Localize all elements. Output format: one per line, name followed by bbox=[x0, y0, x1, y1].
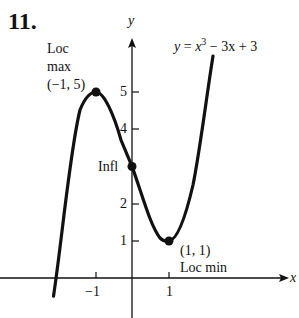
y-axis-label: y bbox=[128, 14, 134, 28]
inflection-label: Infl bbox=[98, 160, 118, 174]
equation-label: y = x3 − 3x + 3 bbox=[174, 37, 257, 54]
y-tick-label-4: 4 bbox=[120, 122, 127, 136]
equation-eq: = bbox=[180, 39, 195, 54]
x-tick-label-neg1: −1 bbox=[85, 285, 100, 299]
local-max-point bbox=[92, 88, 101, 97]
x-tick-label-1: 1 bbox=[166, 285, 173, 299]
y-tick-label-2: 2 bbox=[120, 197, 127, 211]
equation-rest: − 3x + 3 bbox=[206, 39, 257, 54]
y-tick-label-1: 1 bbox=[120, 234, 127, 248]
loc-max-coord: (−1, 5) bbox=[47, 78, 85, 92]
loc-max-label-line1: Loc bbox=[47, 42, 69, 56]
loc-min-coord: (1, 1) bbox=[180, 244, 210, 258]
loc-max-label-line2: max bbox=[47, 60, 71, 74]
inflection-point bbox=[128, 162, 137, 171]
problem-number: 11. bbox=[8, 9, 37, 33]
local-min-point bbox=[165, 237, 174, 246]
loc-min-label: Loc min bbox=[180, 261, 227, 275]
y-tick-label-5: 5 bbox=[120, 85, 127, 99]
x-axis-label: x bbox=[290, 271, 296, 285]
